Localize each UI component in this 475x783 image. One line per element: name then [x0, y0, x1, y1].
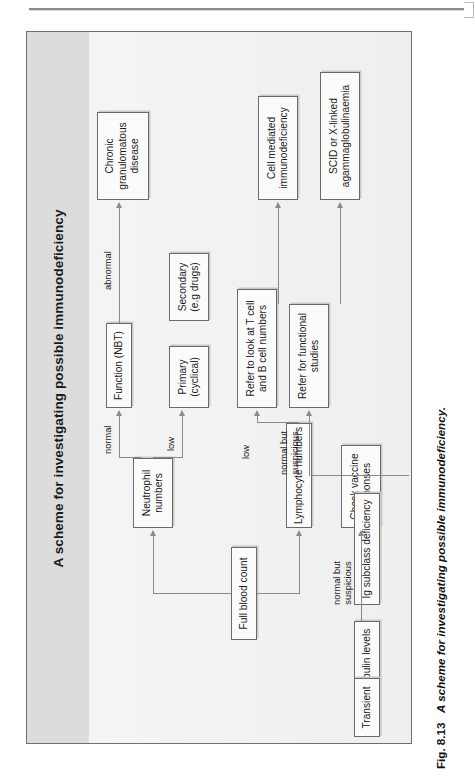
node-function-nbt[interactable]: Function (NBT)	[106, 323, 132, 408]
node-label-line1: Refer for functional	[297, 313, 309, 399]
edge-ig-to-vaccine-horizontal	[361, 536, 362, 621]
edge-neutrophil-to-primary-horizontal	[182, 416, 183, 458]
node-label-line2: immunodeficiency	[278, 107, 290, 189]
node-label: Ig subclass deficiency	[361, 499, 373, 598]
edge-neutrophil-to-function-vertical	[119, 457, 141, 458]
node-label-line1: Cell mediated	[266, 117, 278, 179]
node-label: Function (NBT)	[113, 331, 125, 400]
edge-function-to-cgd	[119, 208, 120, 323]
edge-label-line2: suspicious	[343, 561, 353, 604]
node-label-line2: and B cell numbers	[257, 305, 269, 392]
node-label-line3: disease	[129, 138, 141, 173]
edge-fbc-to-neutrophil-horizontal	[153, 536, 154, 594]
arrowhead-lymphocyte-to-refer-func	[306, 410, 312, 416]
edge-label-normal-but-suspicious-lymphocyte: normal but suspicious	[279, 431, 301, 475]
edge-label-line1: normal but	[279, 431, 289, 475]
node-full-blood-count[interactable]: Full blood count	[231, 547, 257, 640]
node-neutrophil-numbers[interactable]: Neutrophil numbers	[133, 458, 173, 528]
figure-frame: A scheme for investigating possible immu…	[26, 31, 412, 744]
edge-refer-func-to-scid	[340, 208, 341, 304]
edge-label-line2: suspicious	[290, 431, 300, 474]
arrowhead-ig-to-vaccine	[358, 530, 364, 536]
edge-label-abnormal: abnormal	[103, 251, 114, 290]
edge-label-line1: normal but	[332, 561, 342, 605]
node-label-line1: Secondary	[177, 263, 189, 312]
node-label-line1: Primary	[177, 359, 189, 394]
node-label-line1: SCID or X-linked	[328, 98, 340, 174]
edge-lymphocyte-to-refer-tb-vertical	[257, 422, 299, 423]
node-refer-t-and-b-cell-numbers[interactable]: Refer to look at T cell and B cell numbe…	[237, 289, 277, 408]
node-label-line1: Neutrophil	[141, 470, 153, 516]
arrowhead-fbc-to-lymphocyte	[296, 530, 302, 536]
edge-lymphocyte-to-refer-func-horizontal	[309, 416, 310, 476]
arrowhead-lymphocyte-to-refer-tb	[254, 410, 260, 416]
node-label: Full blood count	[238, 558, 250, 630]
top-divider-end-cap	[464, 2, 474, 18]
arrowhead-refer-func-to-cellmed	[275, 202, 281, 208]
edge-lymphocyte-to-refer-func-vertical	[312, 475, 409, 476]
node-ig-subclass-deficiency[interactable]: Ig subclass deficiency	[354, 493, 380, 605]
node-label: Transient	[361, 686, 373, 728]
edge-fbc-to-lymphocyte-horizontal	[299, 536, 300, 594]
node-label-line2: agammaglobulinaemia	[340, 85, 352, 188]
edge-fbc-to-lymphocyte-vertical	[257, 593, 299, 594]
arrowhead-neutrophil-to-primary	[179, 410, 185, 416]
edge-label-low-lymphocyte: low	[241, 445, 252, 459]
arrowhead-refer-func-to-scid	[337, 202, 343, 208]
figure-title: A scheme for investigating possible immu…	[27, 32, 89, 744]
node-chronic-granulomatous-disease[interactable]: Chronic granulomatous disease	[97, 112, 149, 200]
node-label-line1: Refer to look at T cell	[245, 301, 257, 397]
node-refer-for-functional-studies[interactable]: Refer for functional studies	[289, 304, 329, 408]
arrowhead-fbc-to-neutrophil	[150, 530, 156, 536]
node-label-line2: numbers	[153, 473, 165, 513]
arrowhead-neutrophil-to-function	[116, 410, 122, 416]
top-divider-shadow	[30, 10, 468, 11]
node-primary-cyclical[interactable]: Primary (cyclical)	[169, 346, 209, 408]
edge-fbc-to-neutrophil-vertical	[153, 593, 231, 594]
edge-neutrophil-to-primary-vertical	[153, 457, 182, 458]
node-secondary-drugs[interactable]: Secondary (e.g drugs)	[169, 253, 209, 321]
node-label-line2: granulomatous	[117, 122, 129, 189]
node-label-line2: (cyclical)	[189, 357, 201, 397]
node-cell-mediated-immunodeficiency[interactable]: Cell mediated immunodeficiency	[258, 96, 298, 200]
node-scid-or-x-linked-agammaglobulinaemia[interactable]: SCID or X-linked agammaglobulinaemia	[320, 72, 360, 200]
edge-label-normal-but-suspicious-ig: normal but suspicious	[332, 561, 354, 605]
edge-label-normal: normal	[103, 426, 114, 454]
node-transient[interactable]: Transient	[354, 678, 380, 737]
caption-number: Fig. 8.13	[434, 723, 447, 769]
edge-neutrophil-to-function-horizontal	[119, 416, 120, 458]
figure-caption: Fig. 8.13 A scheme for investigating pos…	[434, 69, 460, 769]
arrowhead-function-to-cgd	[116, 202, 122, 208]
node-label-line1: Chronic	[104, 138, 116, 173]
flowchart-canvas: Full blood count Neutrophil numbers Lymp…	[89, 32, 411, 744]
caption-text: A scheme for investigating possible immu…	[434, 407, 447, 713]
node-label-line2: studies	[309, 340, 321, 372]
edge-refer-func-to-cellmed	[278, 208, 279, 304]
node-label-line2: (e.g drugs)	[189, 262, 201, 311]
edge-label-low-neutrophil: low	[166, 437, 177, 451]
